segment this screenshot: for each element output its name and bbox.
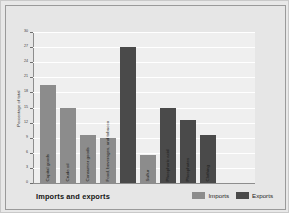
legend-swatch-exports-icon xyxy=(236,192,249,199)
legend-label-exports: Exports xyxy=(252,192,273,199)
bar-crude-oil xyxy=(60,108,76,184)
y-tick-mark xyxy=(30,138,33,139)
y-tick-mark xyxy=(30,32,33,33)
y-tick-label: 27 xyxy=(24,45,28,49)
y-tick-label: 18 xyxy=(24,91,28,95)
y-tick-mark xyxy=(30,77,33,78)
bar-clothing xyxy=(200,135,216,183)
y-tick-mark xyxy=(30,123,33,124)
y-tick-label: 24 xyxy=(24,60,28,64)
y-tick-label: 15 xyxy=(24,106,28,110)
y-tick-mark xyxy=(30,62,33,63)
gridline xyxy=(33,77,255,78)
chart-legend: Imports Exports xyxy=(192,192,273,199)
chart-figure: Percentage of total 036912151821242730 C… xyxy=(0,0,289,213)
y-axis-title-label: Percentage of total xyxy=(16,90,21,126)
bar-consumer-goods xyxy=(80,135,96,183)
legend-entry-exports: Exports xyxy=(236,192,273,199)
gridline xyxy=(33,32,255,33)
bar-food-beverages-and-tobacco xyxy=(100,138,116,183)
y-tick-mark xyxy=(30,153,33,154)
y-tick-mark xyxy=(30,183,33,184)
bar-capital-goods xyxy=(40,85,56,183)
legend-entry-imports: Imports xyxy=(192,192,229,199)
y-tick-label: 9 xyxy=(26,136,28,140)
y-tick-label: 3 xyxy=(26,166,28,170)
y-tick-label: 0 xyxy=(26,181,28,185)
bar-phosphoric-acid xyxy=(160,108,176,184)
y-axis-title: Percentage of total xyxy=(13,32,23,184)
y-tick-mark xyxy=(30,108,33,109)
y-tick-mark xyxy=(30,168,33,169)
y-tick-mark xyxy=(30,47,33,48)
y-tick-label: 21 xyxy=(24,76,28,80)
legend-label-imports: Imports xyxy=(208,192,229,199)
chart-card: Percentage of total 036912151821242730 C… xyxy=(5,5,286,210)
gridline xyxy=(33,92,255,93)
gridline xyxy=(33,62,255,63)
bar-phosphates xyxy=(180,120,196,183)
bar-exports xyxy=(120,47,136,183)
legend-swatch-imports-icon xyxy=(192,192,205,199)
plot-area: 036912151821242730 Capital goodsCrude oi… xyxy=(33,32,255,184)
y-tick-mark xyxy=(30,92,33,93)
bar-sulfur xyxy=(140,155,156,183)
y-tick-label: 6 xyxy=(26,151,28,155)
y-tick-label: 30 xyxy=(24,30,28,34)
chart-title: Imports and exports xyxy=(36,192,110,201)
gridline xyxy=(33,47,255,48)
y-tick-label: 12 xyxy=(24,121,28,125)
